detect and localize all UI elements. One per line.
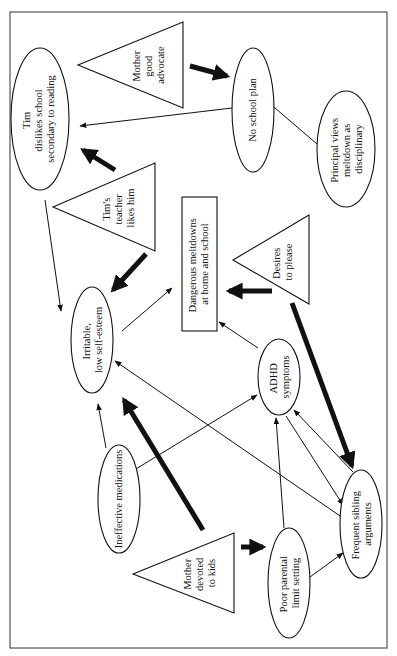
node-label: secondary to reading (45, 75, 56, 163)
node-label: to please (283, 243, 294, 280)
svg-text:No school plan: No school plan (247, 77, 258, 141)
node-label: disciplinary (353, 123, 364, 173)
node-ineffective-medications: Ineffective medications (98, 445, 140, 553)
node-label: good (143, 55, 154, 77)
node-poor-parental-limit-setting: Poor parental limit setting (268, 528, 310, 638)
node-label: devoted (194, 557, 205, 591)
node-dangerous-meltdowns: Dangerous meltdowns at home and school (182, 197, 217, 331)
node-label: teacher (113, 194, 124, 225)
node-tim-dislikes-school: Tim dislikes school secondary to reading (11, 48, 69, 190)
node-label: Dangerous meltdowns (187, 218, 198, 312)
node-label: advocate (155, 46, 166, 84)
node-label: ADHD (268, 363, 279, 394)
node-label: Desires (271, 248, 282, 280)
svg-text:Principal views meltdown: Principal views meltdown as disciplinary (329, 115, 364, 183)
edge-teacher-to-timdislikes (83, 150, 115, 170)
node-mother-good-advocate: Mother good advocate (78, 22, 183, 108)
node-label: Mother (131, 50, 142, 81)
node-no-school-plan: No school plan (232, 48, 274, 172)
svg-text:Poor parental limit sett: Poor parental limit setting (278, 554, 301, 613)
edge-teacher-to-irritable (113, 254, 146, 290)
node-teacher-likes-him: Tim's teacher likes him (53, 163, 155, 251)
edge-meds-to-irritable (98, 404, 106, 448)
edge-principal-to-noplan (268, 102, 317, 144)
node-mother-devoted-to-kids: Mother devoted to kids (133, 533, 234, 613)
node-frequent-sibling-arguments: Frequent sibling arguments (340, 470, 382, 578)
node-label: Mother (182, 558, 193, 589)
edge-timdislikes-to-irritable (45, 200, 61, 311)
edge-adhd-to-meltdowns (219, 322, 258, 348)
edge-irritable-to-meltdowns (122, 288, 172, 331)
node-label: Poor parental (278, 556, 289, 612)
node-label: Irritable, (81, 323, 92, 359)
edge-noplan-to-timdislikes (80, 108, 232, 126)
node-label: limit setting (290, 557, 301, 608)
node-label: likes him (125, 189, 136, 228)
edge-poorlimit-to-sibling (310, 553, 343, 577)
node-label: meltdown as (341, 124, 352, 177)
node-label: Tim's (101, 198, 112, 221)
node-label: to kids (206, 559, 217, 587)
node-label: symptoms (280, 355, 291, 398)
node-label: Frequent sibling (350, 490, 361, 559)
svg-text:ADHD symptoms: ADHD symptoms (268, 355, 291, 398)
svg-text:Mother devoted to: Mother devoted to kids (182, 555, 217, 591)
node-label: Principal views (329, 118, 340, 183)
edge-desires-to-sibling (292, 303, 352, 466)
concept-map: Mother good advocate Tim dislikes school… (0, 0, 397, 656)
edge-adhd-to-sibling (286, 416, 343, 505)
edge-meds-to-adhd (131, 395, 257, 472)
node-principal-views-meltdown: Principal views meltdown as disciplinary (317, 91, 375, 207)
node-label: at home and school (199, 223, 210, 304)
node-label: dislikes school (33, 89, 44, 151)
svg-text:Dangerous meltdowns at h: Dangerous meltdowns at home and school (187, 216, 210, 313)
edge-advocate-to-noplan (190, 66, 227, 76)
node-label: No school plan (247, 77, 258, 141)
node-irritable-low-self-esteem: Irritable, low self-esteem (71, 287, 113, 393)
svg-text:Ineffective medications: Ineffective medications (113, 450, 124, 549)
node-label: arguments (362, 502, 373, 546)
node-label: low self-esteem (93, 307, 104, 373)
node-label: Ineffective medications (113, 450, 124, 549)
node-label: Tim (21, 112, 32, 129)
svg-text:Desires to please: Desires to please (271, 243, 294, 280)
node-adhd-symptoms: ADHD symptoms (258, 339, 300, 415)
